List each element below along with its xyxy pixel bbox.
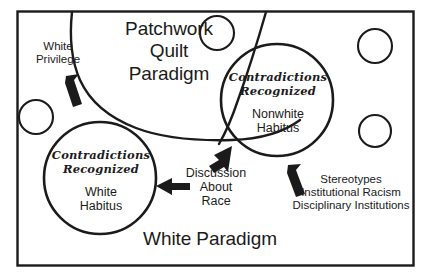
stereotypes-label: Stereotypes Institutional Racism Discipl… [278,173,424,212]
white-habitus-label: White Habitus [47,185,155,213]
patchwork-quilt-paradigm-diagram: Patchwork Quilt Paradigm White Privilege… [0,0,430,280]
discussion-about-race-label: Discussion About Race [172,166,260,208]
white-privilege-label: White Privilege [22,40,94,66]
nonwhite-contradictions-label: Contradictions Recognized [222,70,334,99]
white-paradigm-label: White Paradigm [130,228,290,249]
nonwhite-habitus-label: Nonwhite Habitus [224,107,332,135]
white-contradictions-label: Contradictions Recognized [45,148,157,177]
